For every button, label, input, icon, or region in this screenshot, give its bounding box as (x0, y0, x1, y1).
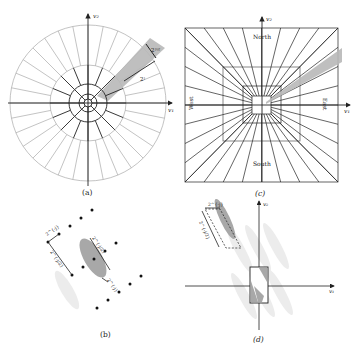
panel-b: 2^{-j} 2^{-j/2} 2^{-j/2} 2^{-j} (b) (45, 209, 143, 340)
label-south: South (253, 160, 271, 167)
caption-a: (a) (82, 188, 92, 197)
annotation-radius: 2ʲ (140, 76, 145, 82)
figure-canvas: v₂ v₁ 2ʲ 2ʲᵄ² (a) v₂ v₁ North South West… (0, 0, 358, 350)
annotation-ellipse-short: 2^{-j} (106, 278, 119, 293)
panel-a: v₂ v₁ 2ʲ 2ʲᵄ² (a) (8, 12, 174, 197)
label-north: North (253, 33, 271, 40)
axis-label-v1: v₁ (168, 106, 174, 113)
label-west: West (188, 96, 194, 110)
annotation-long-d: 2^{-j/2} (198, 220, 211, 240)
panel-d: 2^{-j} 2^{-j/2} v₂ v₁ (d) (185, 197, 334, 344)
annotation-long-b: 2^{-j/2} (49, 250, 64, 269)
annotation-width: 2ʲᵄ² (151, 47, 160, 53)
axis-label-v1-c: v₁ (344, 107, 350, 114)
axis-label-v2-d: v₂ (263, 201, 268, 207)
axis-label-v2: v₂ (93, 12, 99, 19)
panel-c: v₂ v₁ North South West East (c) (185, 15, 350, 198)
caption-d: (d) (253, 335, 264, 344)
wedge-highlight-c (266, 48, 342, 104)
ghost-ellipse (51, 268, 83, 312)
axis-label-v2-c: v₂ (266, 15, 272, 22)
caption-c: (c) (255, 189, 265, 198)
axis-label-v1-d: v₁ (329, 288, 334, 294)
annotation-short-d: 2^{-j} (208, 202, 223, 207)
label-east: East (322, 98, 328, 111)
caption-b: (b) (100, 330, 111, 339)
